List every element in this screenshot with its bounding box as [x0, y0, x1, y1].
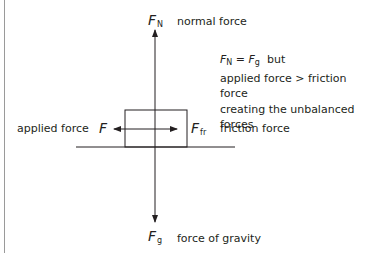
normal-force-symbol: FN [148, 12, 163, 33]
friction-force-symbol: Ffr [191, 120, 206, 141]
note-line-2: applied force > friction force [220, 71, 372, 102]
gravity-force-label: force of gravity [177, 232, 261, 245]
symbol-text: F [99, 120, 107, 136]
applied-force-label: applied force [17, 122, 89, 135]
eq-tail: but [260, 53, 285, 66]
symbol-text: F [148, 228, 156, 244]
subscript-text: N [157, 20, 163, 29]
explanation-note: FN = Fg but applied force > friction for… [220, 52, 372, 133]
subscript-text: g [157, 236, 162, 245]
friction-force-label: friction force [220, 122, 290, 135]
equation-line: FN = Fg but [220, 52, 372, 71]
normal-force-label: normal force [177, 15, 247, 28]
subscript-text: fr [200, 128, 206, 137]
applied-force-symbol: F [99, 120, 107, 136]
symbol-text: F [148, 12, 156, 28]
eq-operator: = [232, 53, 248, 66]
gravity-force-symbol: Fg [148, 228, 162, 249]
symbol-text: F [191, 120, 199, 136]
